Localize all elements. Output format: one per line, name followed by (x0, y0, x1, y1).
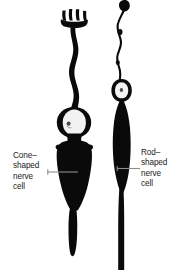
rod-label-line-2: shaped (141, 158, 167, 168)
cone-shaped-nerve-cell-label: Cone– shaped nerve cell (13, 151, 39, 193)
cone-nucleolus (67, 121, 71, 125)
photoreceptor-diagram (0, 0, 180, 270)
cone-inner-segment (69, 25, 79, 112)
rod-filament-swelling-upper (118, 29, 123, 35)
rod-shaped-nerve-cell-label: Rod– shaped nerve cell (141, 148, 167, 190)
retina-photoreceptor-figure: Cone– shaped nerve cell Rod– shaped nerv… (0, 0, 180, 270)
rod-nucleolus (120, 88, 123, 92)
rod-outer-segment-filament (117, 10, 124, 81)
rod-cell-body (113, 98, 131, 193)
cone-axon (68, 207, 77, 256)
cone-label-line-2: shaped (13, 161, 39, 171)
cone-body-shoulder-left (56, 144, 63, 149)
cone-label-line-4: cell (13, 182, 39, 192)
cone-label-line-3: nerve (13, 172, 39, 182)
rod-label-line-1: Rod– (141, 148, 167, 158)
rod-axon (118, 188, 124, 270)
rod-shaped-nerve-cell (111, 0, 131, 270)
cone-cell-body (57, 141, 92, 211)
cone-shaped-nerve-cell (56, 9, 93, 256)
rod-label-line-3: nerve (141, 169, 167, 179)
rod-filament-swelling-lower (116, 60, 120, 65)
cone-label-line-1: Cone– (13, 151, 39, 161)
cone-body-shoulder-right (86, 144, 93, 149)
cone-nucleus (63, 110, 86, 136)
rod-label-line-4: cell (141, 179, 167, 189)
